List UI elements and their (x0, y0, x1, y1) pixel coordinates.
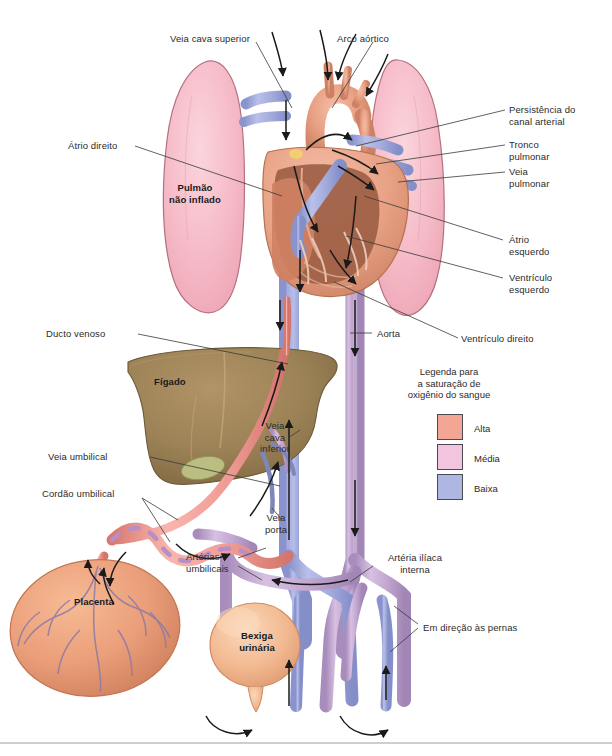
label-cordao-umbilical: Cordão umbilical (42, 488, 114, 500)
legend-swatch-media (437, 444, 463, 470)
placenta-graphic (3, 551, 186, 704)
label-veia-cava-inferior: Veia cava inferior (252, 420, 298, 455)
label-arco-aortico: Arco aórtico (337, 33, 389, 45)
legend-title: Legenda para a saturação de oxigênio do … (385, 366, 513, 401)
label-veia-cava-superior: Veia cava superior (170, 33, 250, 45)
label-em-direcao-as-pernas: Em direção às pernas (423, 622, 517, 634)
label-arteria-iliaca-interna: Artéria ilíaca interna (366, 552, 464, 575)
label-placenta: Placenta (74, 596, 114, 608)
legend-label-media: Média (474, 453, 500, 465)
label-tronco-pulmonar: Tronco pulmonar (509, 139, 549, 162)
label-persistencia-canal-arterial: Persistência do canal arterial (509, 104, 575, 127)
bladder-graphic (210, 603, 300, 712)
fetal-circulation-figure: Veia cava superior Arco aórtico Átrio di… (0, 0, 612, 756)
label-veia-umbilical: Veia umbilical (48, 451, 108, 463)
legend-swatch-baixa (437, 474, 463, 500)
legend-label-baixa: Baixa (474, 483, 498, 495)
label-ventriculo-esquerdo: Ventrículo esquerdo (509, 272, 552, 295)
liver-graphic (128, 348, 337, 485)
label-veia-pulmonar: Veia pulmonar (509, 166, 549, 189)
label-atrio-direito: Átrio direito (68, 140, 117, 152)
label-ducto-venoso: Ducto venoso (46, 328, 105, 340)
label-veia-porta: Veia porta (254, 512, 298, 535)
label-arterias-umbilicais: Artérias umbilicais (186, 551, 229, 574)
label-aorta: Aorta (377, 328, 400, 340)
label-pulmao-nao-inflado: Pulmão não inflado (150, 182, 240, 205)
legend-swatch-alta (437, 414, 463, 440)
label-bexiga-urinaria: Bexiga urinária (228, 630, 286, 653)
label-atrio-esquerdo: Átrio esquerdo (509, 234, 549, 257)
label-ventriculo-direito: Ventrículo direito (461, 333, 534, 345)
legend-label-alta: Alta (474, 423, 490, 435)
label-figado: Fígado (154, 376, 186, 388)
